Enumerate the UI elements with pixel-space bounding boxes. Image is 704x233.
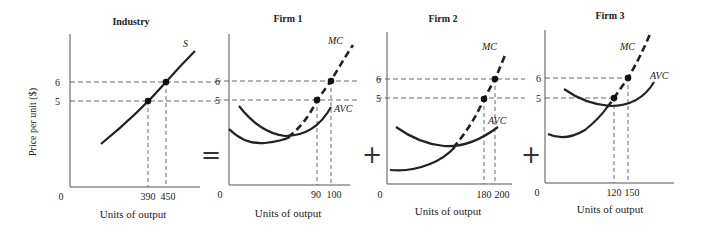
- price-tick-6: 6: [376, 74, 381, 85]
- qty-tick-120: 120: [607, 187, 622, 198]
- price-tick-5: 5: [536, 93, 541, 104]
- mc-curve: [453, 55, 505, 148]
- curve-label-mc: MC: [481, 41, 497, 52]
- point-120-5: [611, 95, 618, 102]
- panel-firm-2: Firm 2 MC AVC 6 5 0 180 200 Units of out…: [376, 13, 525, 217]
- point-180-5: [481, 96, 488, 103]
- panel-firm-1: Firm 1 MC AVC 6 5 0 90 100 Units of outp…: [215, 13, 360, 219]
- price-tick-5: 5: [376, 93, 381, 104]
- qty-tick-200: 200: [495, 189, 510, 200]
- origin-label: 0: [59, 191, 64, 202]
- origin-label: 0: [378, 189, 383, 200]
- price-tick-6: 6: [55, 77, 60, 88]
- axes: [387, 32, 512, 184]
- qty-tick-180: 180: [477, 189, 492, 200]
- mc-curve-solid: [390, 147, 455, 170]
- plus-operator-2: +: [521, 141, 541, 169]
- axes: [70, 34, 200, 187]
- point-200-6: [492, 76, 499, 83]
- qty-tick-390: 390: [141, 191, 156, 202]
- qty-tick-100: 100: [327, 189, 342, 200]
- price-tick-6: 6: [215, 76, 220, 87]
- x-axis-label: Units of output: [100, 208, 167, 220]
- plus-operator-1: +: [362, 141, 382, 169]
- point-100-6: [328, 78, 335, 85]
- qty-tick-150: 150: [625, 187, 640, 198]
- mc-curve-solid: [548, 106, 608, 137]
- y-axis-label: Price per unit ($): [27, 88, 39, 156]
- curve-label-s: S: [183, 38, 188, 49]
- price-tick-5: 5: [215, 95, 220, 106]
- panel-title: Firm 1: [273, 13, 302, 24]
- price-tick-6: 6: [536, 73, 541, 84]
- panel-firm-3: Firm 3 MC AVC 6 5 0 120 150 Units of out…: [535, 10, 675, 215]
- origin-label: 0: [535, 187, 540, 198]
- axes: [229, 34, 350, 185]
- curve-label-mc: MC: [327, 35, 343, 46]
- origin-label: 0: [218, 189, 223, 200]
- avc-curve: [396, 127, 498, 146]
- curve-label-avc: AVC: [333, 103, 353, 114]
- x-axis-label: Units of output: [415, 205, 482, 217]
- equals-operator: =: [201, 141, 221, 169]
- price-tick-5: 5: [55, 96, 60, 107]
- x-axis-label: Units of output: [577, 203, 644, 215]
- panel-industry: Industry S 6 5 0 390 450 Units of output: [55, 16, 216, 220]
- qty-tick-450: 450: [161, 191, 176, 202]
- mc-curve: [288, 45, 353, 137]
- supply-diagram: Price per unit ($) Industry S 6 5 0 390 …: [0, 0, 704, 233]
- curve-label-avc: AVC: [487, 115, 507, 126]
- x-axis-label: Units of output: [255, 207, 322, 219]
- point-90-5: [314, 97, 321, 104]
- point-450-6: [163, 79, 170, 86]
- point-150-6: [625, 75, 632, 82]
- curve-label-mc: MC: [619, 41, 635, 52]
- qty-tick-90: 90: [311, 189, 321, 200]
- curve-label-avc: AVC: [649, 70, 669, 81]
- panel-title: Industry: [112, 16, 149, 27]
- panel-title: Firm 2: [428, 13, 457, 24]
- panel-title: Firm 3: [595, 10, 624, 21]
- avc-curve: [564, 82, 654, 106]
- point-390-5: [145, 98, 152, 105]
